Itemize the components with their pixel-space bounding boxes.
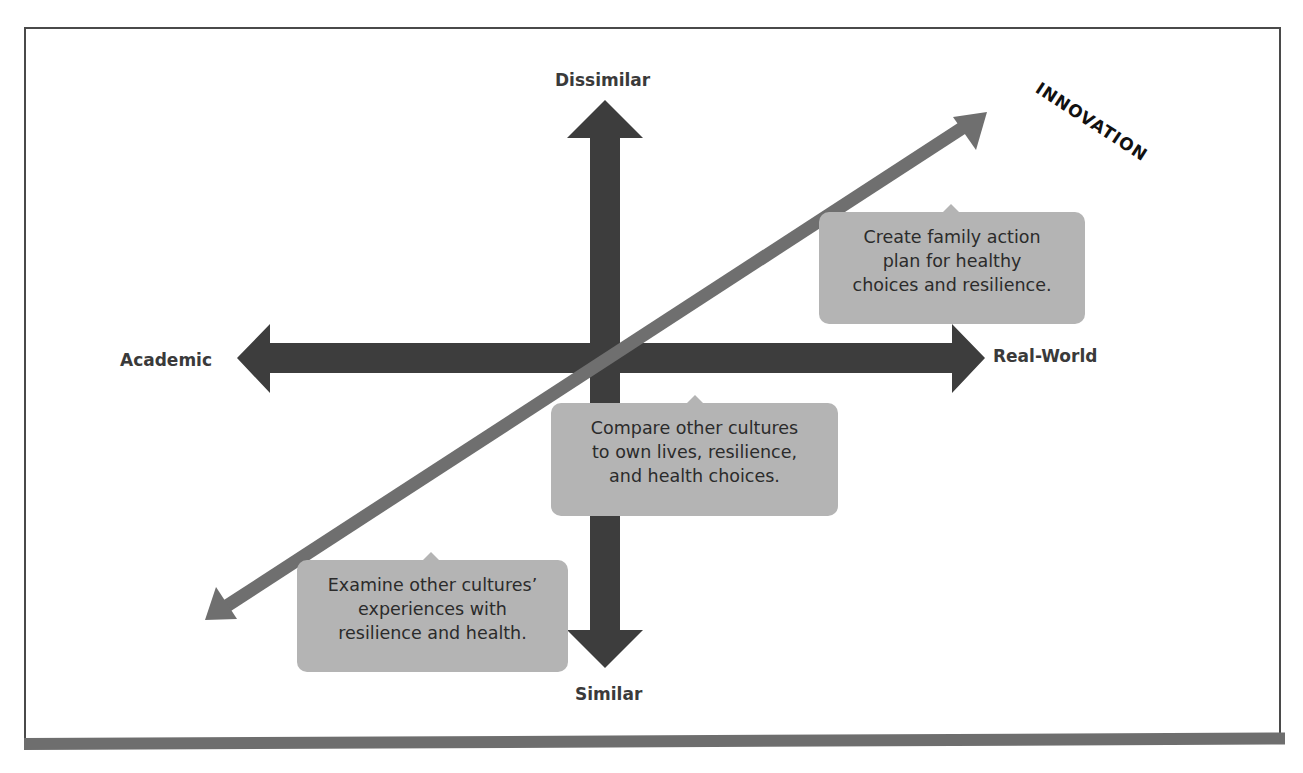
callout-line: and health choices.: [561, 464, 828, 488]
callout-line: resilience and health.: [307, 621, 558, 645]
callout-line: Examine other cultures’: [307, 573, 558, 597]
callout-line: Create family action: [829, 225, 1075, 249]
callout-examine-other-cultures: Examine other cultures’ experiences with…: [297, 560, 568, 672]
axis-label-similar: Similar: [575, 684, 642, 704]
callout-line: to own lives, resilience,: [561, 440, 828, 464]
axis-label-dissimilar: Dissimilar: [555, 70, 650, 90]
axes-graphic: [0, 0, 1303, 773]
callout-line: experiences with: [307, 597, 558, 621]
callout-compare-other-cultures: Compare other cultures to own lives, res…: [551, 403, 838, 516]
axis-label-real-world: Real-World: [993, 346, 1097, 366]
callout-line: Compare other cultures: [561, 416, 828, 440]
callout-create-family-action-plan: Create family action plan for healthy ch…: [819, 212, 1085, 324]
callout-line: plan for healthy: [829, 249, 1075, 273]
callout-line: choices and resilience.: [829, 273, 1075, 297]
axis-label-academic: Academic: [120, 350, 212, 370]
